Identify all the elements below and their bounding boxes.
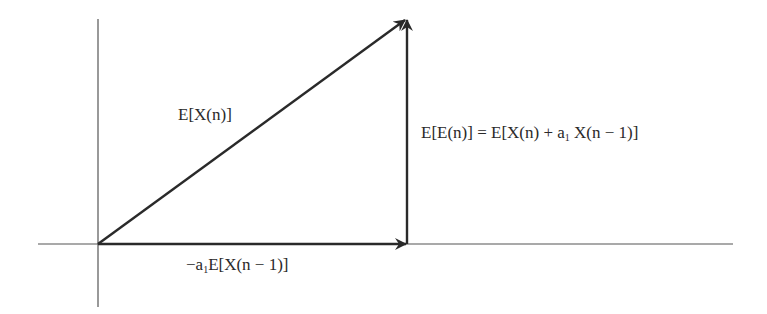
vector-ex-n	[98, 20, 405, 244]
label-text: X(n − 1)]	[570, 123, 639, 142]
label-ee-n: E[E(n)] = E[X(n) + a1 X(n − 1)]	[421, 124, 638, 143]
label-text: −a	[186, 255, 203, 274]
label-text: E[X(n − 1)]	[208, 255, 288, 274]
label-text: E[X(n)]	[178, 105, 232, 124]
diagram-canvas	[0, 0, 767, 314]
label-ex-n: E[X(n)]	[178, 106, 232, 123]
label-a1-ex-n-1: −a1E[X(n − 1)]	[186, 256, 289, 275]
label-text: E[E(n)] = E[X(n) + a	[421, 123, 565, 142]
